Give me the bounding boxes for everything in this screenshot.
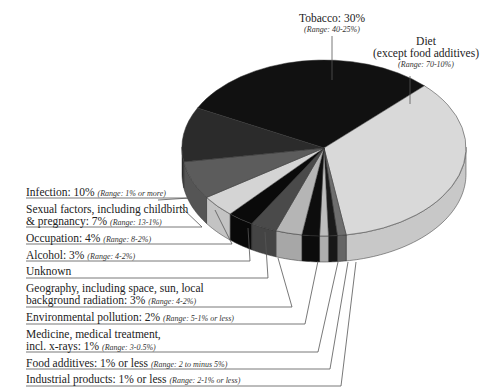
label-diet-text: Diet (366, 35, 484, 47)
label-diet-text2: (except food additives) (366, 47, 484, 59)
label-tobacco-text: Tobacco: 30% (272, 12, 392, 24)
label-medicine-text2: incl. x-rays: 1% (26, 340, 99, 352)
label-medicine-text: Medicine, medical treatment, (26, 328, 161, 340)
label-industrial-range: (Range: 2-1% or less) (169, 376, 240, 385)
pie-side-6 (276, 231, 302, 261)
label-food-additives-range: (Range: 2 to minus 5%) (151, 360, 227, 369)
label-food-additives: Food additives: 1% or less (Range: 2 to … (26, 357, 227, 371)
label-diet: Diet (except food additives) (Range: 70-… (366, 35, 484, 71)
label-alcohol: Alcohol: 3% (Range: 4-2%) (26, 249, 135, 263)
label-industrial-text: Industrial products: 1% or less (26, 373, 167, 385)
pie-side-4 (320, 236, 329, 262)
label-sexual-range: (Range: 13-1%) (110, 218, 162, 227)
label-environmental-text: Environmental pollution: 2% (26, 311, 160, 323)
label-tobacco: Tobacco: 30% (Range: 40-25%) (272, 12, 392, 36)
label-sexual-text2: & pregnancy: 7% (26, 215, 107, 227)
label-infection: Infection: 10% (Range: 1% or more) (26, 186, 166, 200)
label-sexual-text: Sexual factors, including childbirth (26, 203, 188, 215)
pie-side-5 (302, 235, 320, 262)
label-geography-text2: background radiation: 3% (26, 294, 145, 306)
label-unknown: Unknown (26, 265, 71, 277)
pie-top-face (182, 60, 466, 236)
label-occupation: Occupation: 4% (Range: 8-2%) (26, 232, 151, 246)
label-geography-range: (Range: 4-2%) (148, 297, 196, 306)
label-sexual-factors: Sexual factors, including childbirth & p… (26, 203, 188, 229)
label-geography: Geography, including space, sun, local b… (26, 282, 204, 308)
label-occupation-range: (Range: 8-2%) (103, 235, 151, 244)
label-food-additives-text: Food additives: 1% or less (26, 357, 148, 369)
pie-side-3 (328, 236, 337, 262)
label-diet-range: (Range: 70-10%) (366, 59, 484, 71)
label-infection-range: (Range: 1% or more) (98, 189, 166, 198)
label-environmental: Environmental pollution: 2% (Range: 5-1%… (26, 311, 234, 325)
label-environmental-range: (Range: 5-1% or less) (163, 314, 234, 323)
label-unknown-text: Unknown (26, 265, 71, 277)
label-medicine: Medicine, medical treatment, incl. x-ray… (26, 328, 161, 354)
label-industrial: Industrial products: 1% or less (Range: … (26, 373, 240, 387)
label-occupation-text: Occupation: 4% (26, 232, 100, 244)
label-infection-text: Infection: 10% (26, 186, 95, 198)
label-geography-text: Geography, including space, sun, local (26, 282, 204, 294)
label-alcohol-text: Alcohol: 3% (26, 249, 84, 261)
pie-side-2 (337, 235, 346, 262)
label-alcohol-range: (Range: 4-2%) (87, 252, 135, 261)
label-medicine-range: (Range: 3-0.5%) (102, 343, 156, 352)
